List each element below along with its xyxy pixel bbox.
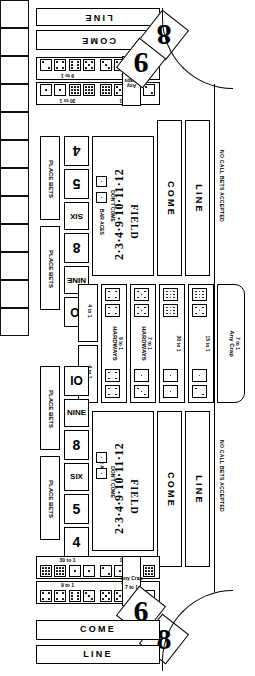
bottom-place-bets-right-label: PLACE BETS <box>41 457 61 541</box>
die-face[interactable] <box>54 590 66 602</box>
odds-box[interactable] <box>0 308 29 336</box>
bottom-place-number-ten-label: IO <box>65 367 88 395</box>
die-face[interactable] <box>40 565 52 577</box>
top-pass-line-box[interactable]: LINE <box>36 8 160 26</box>
odds-box[interactable] <box>0 224 29 252</box>
bottom-place-number-4[interactable]: 4 <box>64 527 89 557</box>
die-face[interactable] <box>105 304 120 317</box>
die-face[interactable] <box>69 84 81 96</box>
die-face[interactable] <box>105 385 120 398</box>
die-face[interactable] <box>83 590 95 602</box>
die-face[interactable] <box>69 565 81 577</box>
bottom-place-bets-left-label: PLACE BETS <box>41 367 61 451</box>
bottom-place-number-six-label: SIX <box>65 464 88 490</box>
top-place-bets-left-strip[interactable]: PLACE BETS <box>40 136 60 220</box>
bottom-come-box[interactable]: COME <box>36 620 160 640</box>
die-face[interactable] <box>192 369 207 382</box>
die-face[interactable] <box>163 304 178 317</box>
die-face[interactable] <box>83 565 95 577</box>
craps-table-layout: LINE COME 9 to 1 7 to 1 30 <box>0 0 255 676</box>
die-face[interactable] <box>54 565 66 577</box>
die-face[interactable] <box>100 590 112 602</box>
die-face[interactable] <box>105 288 120 301</box>
die-face[interactable] <box>192 385 207 398</box>
odds-box[interactable] <box>0 84 29 112</box>
bottom-rail-arc <box>162 590 233 671</box>
die-face[interactable] <box>100 59 112 71</box>
bottom-place-number-ten[interactable]: IO <box>64 366 89 396</box>
top-place-number-8[interactable]: 8 <box>64 233 89 263</box>
bottom-place-number-nine[interactable]: NINE <box>64 399 89 427</box>
die-face[interactable] <box>69 590 81 602</box>
center-hardways-nine-odds: 9 to 1 <box>115 325 126 363</box>
die-face[interactable] <box>134 385 149 398</box>
top-corner-nine: 9 <box>125 45 157 81</box>
bottom-come-label: COME <box>37 621 159 639</box>
die-face[interactable] <box>100 84 112 96</box>
top-place-number-8-label: 8 <box>65 234 88 262</box>
odds-box[interactable] <box>0 112 29 140</box>
bottom-place-number-six[interactable]: SIX <box>64 463 89 491</box>
die-face[interactable] <box>40 590 52 602</box>
bottom-place-number-5[interactable]: 5 <box>64 494 89 524</box>
top-line-bet-label: LINE <box>191 121 205 277</box>
bottom-place-bets-left-strip[interactable]: PLACE BETS <box>40 366 60 450</box>
top-hardways-nine-odds: 9 to 1 <box>40 71 95 79</box>
bottom-place-bets-right-strip[interactable]: PLACE BETS <box>40 456 60 540</box>
die-face[interactable] <box>192 304 207 317</box>
top-come-bet-box[interactable]: COME <box>157 120 182 276</box>
odds-box[interactable] <box>0 168 29 196</box>
bottom-line-bet-label: LINE <box>191 412 205 568</box>
die-face[interactable] <box>83 59 95 71</box>
bottom-place-number-8[interactable]: 8 <box>64 430 89 460</box>
odds-box[interactable] <box>0 0 29 28</box>
die-face[interactable] <box>40 84 52 96</box>
die-face[interactable] <box>134 369 149 382</box>
die-face[interactable] <box>83 84 95 96</box>
die-face[interactable] <box>54 59 66 71</box>
die-face[interactable] <box>163 385 178 398</box>
top-place-bets-right-strip[interactable]: PLACE BETS <box>40 226 60 310</box>
top-rail-arc <box>162 8 233 89</box>
odds-box[interactable] <box>0 196 29 224</box>
bottom-hardways-nine-odds: 9 to 1 <box>40 582 95 590</box>
top-place-number-six[interactable]: SIX <box>64 202 89 230</box>
top-pass-line-label: LINE <box>37 9 159 25</box>
die-face[interactable] <box>69 59 81 71</box>
odds-box[interactable] <box>0 280 29 308</box>
top-place-number-4-label: 4 <box>65 137 88 165</box>
center-any-crap-odds: 7 to 1 <box>232 325 243 363</box>
die-face[interactable] <box>143 565 155 577</box>
die-face[interactable] <box>192 288 207 301</box>
top-line-bet-box[interactable]: LINE <box>185 120 210 276</box>
die-face[interactable] <box>100 565 112 577</box>
bottom-pass-line-box[interactable]: LINE <box>36 645 160 664</box>
top-place-number-4[interactable]: 4 <box>64 136 89 166</box>
die-face[interactable] <box>163 369 178 382</box>
top-place-number-5[interactable]: 5 <box>64 169 89 199</box>
top-come-bet-label: COME <box>163 121 177 277</box>
center-fifteen-odds: 15 to 1 <box>202 325 213 363</box>
center-ce-top-box[interactable]: 4 to 1 <box>78 284 98 342</box>
odds-box[interactable] <box>0 56 29 84</box>
bottom-place-number-5-label: 5 <box>65 495 88 523</box>
die-face[interactable] <box>105 369 120 382</box>
die-face[interactable] <box>134 288 149 301</box>
die-face[interactable] <box>134 304 149 317</box>
odds-box[interactable] <box>0 252 29 280</box>
odds-box[interactable] <box>0 140 29 168</box>
bottom-thirty-odds: 30 to 1 <box>40 557 95 565</box>
top-thirty-odds: 30 to 1 <box>40 96 95 104</box>
top-place-number-six-label: SIX <box>65 203 88 229</box>
center-hardways-seven-odds: 7 to 1 <box>144 325 155 363</box>
die-face[interactable] <box>40 59 52 71</box>
top-no-call-bets-label: NO CALL BETS ACCEPTED <box>215 108 227 264</box>
die-face[interactable] <box>163 288 178 301</box>
bottom-line-bet-box[interactable]: LINE <box>185 411 210 567</box>
bottom-place-number-nine-label: NINE <box>65 400 88 426</box>
top-place-number-5-label: 5 <box>65 170 88 198</box>
bottom-come-bet-box[interactable]: COME <box>157 411 182 567</box>
die-face[interactable] <box>143 84 155 96</box>
odds-box[interactable] <box>0 28 29 56</box>
die-face[interactable] <box>54 84 66 96</box>
